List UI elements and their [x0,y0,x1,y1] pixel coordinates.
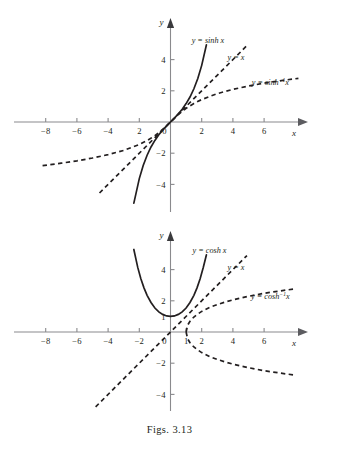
y-tick-label: 2 [161,86,165,96]
cosh-chart-svg: −8−6−4−201246421−2−4xyy = cosh xy = xy =… [0,215,339,415]
x-tick-label: −4 [104,336,114,346]
annotation-lhs: y = sinh [191,36,219,45]
x-tick-label: −2 [135,336,144,346]
y-tick-label: 4 [161,55,166,65]
x-tick-label: −6 [72,336,82,346]
annotation-lhs: y = cosh [192,246,221,255]
x-tick-label: −6 [72,126,82,136]
curve-dashed [96,256,247,407]
y-tick-label: −4 [156,180,166,190]
annotation-arg: x [219,36,225,45]
chart-sinh-panel: −8−6−42024642−2−4xyy = sinh xy = xy = si… [0,0,339,222]
x-axis-arrow-icon [298,118,308,126]
y-axis-arrow-icon [167,231,174,241]
figure-caption: Figs. 3.13 [0,424,339,435]
x-tick-label: 6 [262,336,267,346]
x-tick-label: 2 [137,126,141,136]
annotation-arg: x [285,292,290,301]
x-tick-label: 6 [262,126,267,136]
y-tick-label: 2 [161,296,165,306]
annotation-lhs: y = sinh [251,78,279,87]
x-tick-label: −4 [104,126,114,136]
x-tick-label: 2 [200,336,204,346]
x-tick-label: −8 [41,336,50,346]
x-axis-label: x [291,338,296,348]
x-tick-label: 4 [231,126,236,136]
y-axis-label: y [159,17,164,27]
x-tick-label: 4 [231,336,236,346]
annotation-arg: x [221,246,227,255]
y-axis-arrow-icon [167,18,174,28]
figure-page: −8−6−42024642−2−4xyy = sinh xy = xy = si… [0,0,339,454]
y-tick-label: −2 [156,148,165,158]
y-axis-label: y [159,230,164,240]
y-tick-label: −2 [156,358,165,368]
x-tick-label: 2 [200,126,204,136]
x-tick-label: −8 [41,126,50,136]
curve-annotation: y = sinh−1x [251,77,289,87]
y-tick-label: 4 [161,265,166,275]
x-axis-arrow-icon [298,328,308,336]
chart-cosh-panel: −8−6−4−201246421−2−4xyy = cosh xy = xy =… [0,215,339,415]
curve-annotation: y = sinh x [191,36,225,45]
annotation-lhs: y = cosh [250,292,279,301]
sinh-chart-svg: −8−6−42024642−2−4xyy = sinh xy = xy = si… [0,0,339,222]
y-tick-label: −4 [156,390,166,400]
curve-annotation: y = cosh−1x [250,291,290,301]
curve-annotation: y = x [227,53,245,62]
curve-annotation: y = cosh x [192,246,227,255]
x-tick-label: 1 [184,336,188,346]
curve-annotation: y = x [227,263,245,272]
x-axis-label: x [291,128,296,138]
annotation-arg: x [284,78,289,87]
